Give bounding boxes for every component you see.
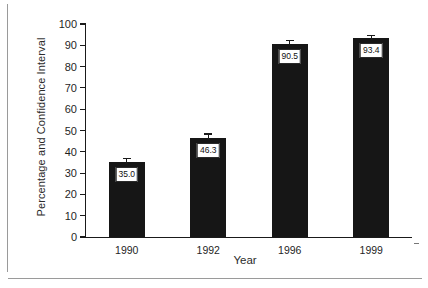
y-tick-mark <box>80 130 86 131</box>
y-tick-label: 80 <box>17 61 77 73</box>
y-axis-tick-labels: 0102030405060708090100 <box>15 0 77 288</box>
y-tick-mark <box>80 45 86 46</box>
y-tick-mark <box>80 215 86 216</box>
y-tick-mark <box>80 236 86 237</box>
y-tick-label: 100 <box>17 18 77 30</box>
error-bar-cap <box>286 40 294 41</box>
y-tick-mark <box>80 66 86 67</box>
y-tick-label: 0 <box>17 231 77 243</box>
error-bar-cap <box>123 158 131 159</box>
y-tick-label: 20 <box>17 188 77 200</box>
y-tick-mark <box>80 23 86 24</box>
y-tick-label: 70 <box>17 82 77 94</box>
y-tick-mark <box>80 173 86 174</box>
error-bar-cap <box>367 35 375 36</box>
chart-page: Percentage and Confidence Interval Year … <box>0 0 428 288</box>
bar-value-label: 35.0 <box>115 167 138 182</box>
bar-value-label: 90.5 <box>278 49 301 64</box>
x-tick-label: 1999 <box>360 244 383 256</box>
y-tick-mark <box>80 151 86 152</box>
y-tick-mark <box>80 194 86 195</box>
x-tick-label: 1996 <box>278 244 301 256</box>
y-tick-label: 30 <box>17 167 77 179</box>
x-tick-label: 1990 <box>115 244 138 256</box>
y-tick-label: 90 <box>17 39 77 51</box>
error-bar-cap <box>204 133 212 134</box>
bar-value-label: 93.4 <box>360 43 383 58</box>
bar-chart: Percentage and Confidence Interval Year … <box>0 0 428 288</box>
bar <box>272 44 308 237</box>
bar <box>353 38 389 237</box>
y-tick-mark <box>80 87 86 88</box>
y-tick-label: 40 <box>17 146 77 158</box>
x-axis-end-tick <box>414 243 419 244</box>
y-tick-label: 10 <box>17 210 77 222</box>
bar-value-label: 46.3 <box>197 143 220 158</box>
y-tick-label: 50 <box>17 125 77 137</box>
y-tick-label: 60 <box>17 103 77 115</box>
y-tick-mark <box>80 109 86 110</box>
x-tick-label: 1992 <box>197 244 220 256</box>
